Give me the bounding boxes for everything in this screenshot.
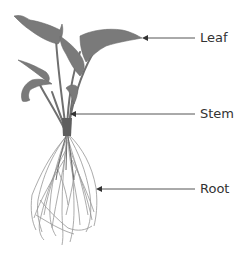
leaves	[14, 15, 142, 104]
plant-diagram: Leaf Stem Root	[0, 0, 244, 261]
leaf-top-left	[14, 15, 63, 44]
leaf-top-right	[80, 29, 142, 62]
leaf-label: Leaf	[200, 31, 228, 44]
leaf-arrow	[142, 35, 195, 41]
root-label: Root	[200, 182, 229, 195]
roots	[31, 136, 97, 245]
stem-base	[62, 118, 72, 136]
stem-label: Stem	[200, 107, 234, 120]
leaf-left-upper	[18, 60, 49, 82]
root-arrow	[96, 186, 195, 192]
stem-arrow	[70, 111, 195, 117]
